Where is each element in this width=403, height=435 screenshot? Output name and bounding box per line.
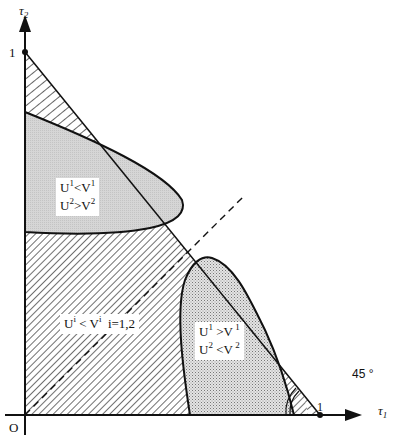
tau1-arrow-icon <box>345 409 362 421</box>
diagram-canvas <box>0 0 403 435</box>
upper-region-label: U1<V1 U2>V2 <box>56 178 99 216</box>
tau1-label: τ1 <box>378 404 387 417</box>
upper-region <box>25 112 183 234</box>
main-region-label: Ui < Vi i=1,2 <box>60 314 139 334</box>
tau2-label: τ2 <box>19 4 28 17</box>
angle-label: 45 ° <box>352 368 373 380</box>
lower-right-region-label: U1 >V 1 U2 <V 2 <box>195 322 244 360</box>
y-tick-dot <box>22 49 28 55</box>
origin-label: O <box>9 421 18 434</box>
x-tick-label: 1 <box>317 401 323 413</box>
y-tick-label: 1 <box>9 46 16 59</box>
